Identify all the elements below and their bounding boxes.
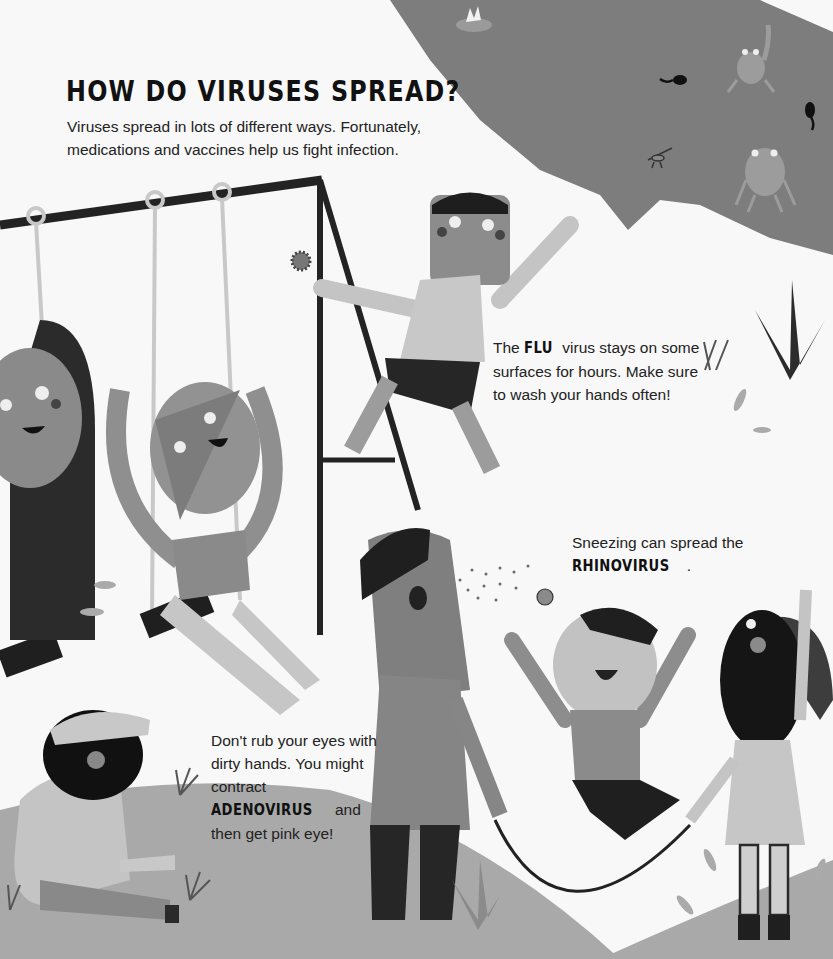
rhinovirus-particle-icon: [537, 589, 553, 605]
flu-callout: The FLU virus stays on some surfaces for…: [493, 336, 713, 406]
adenovirus-callout-text-before: Don't rub your eyes with dirty hands. Yo…: [211, 732, 377, 795]
kid-girl-swing: [116, 382, 320, 715]
kid-jumping: [512, 608, 688, 840]
kid-left-swing: [0, 320, 95, 640]
rhinovirus-callout-text-before: Sneezing can spread the: [572, 534, 743, 551]
virus-particle-icon: [292, 252, 310, 270]
rhinovirus-callout: Sneezing can spread the RHINOVIRUS.: [572, 531, 792, 578]
rhinovirus-callout-text-after: .: [687, 557, 691, 574]
jump-rope: [495, 820, 690, 891]
flu-callout-text-before: The: [493, 339, 524, 356]
adenovirus-virus-name: ADENOVIRUS: [211, 799, 313, 822]
kid-boy-climbing: [322, 193, 570, 471]
book-page: HOW DO VIRUSES SPREAD? Viruses spread in…: [0, 0, 833, 959]
page-title: HOW DO VIRUSES SPREAD?: [66, 74, 461, 108]
adenovirus-callout: Don't rub your eyes with dirty hands. Yo…: [211, 729, 381, 845]
ground-right: [600, 860, 833, 959]
sneeze-droplets: [459, 565, 530, 602]
rhinovirus-virus-name: RHINOVIRUS: [572, 555, 670, 578]
intro-paragraph: Viruses spread in lots of different ways…: [67, 116, 457, 161]
flu-virus-name: FLU: [524, 337, 553, 360]
plant-dark: [755, 280, 825, 380]
